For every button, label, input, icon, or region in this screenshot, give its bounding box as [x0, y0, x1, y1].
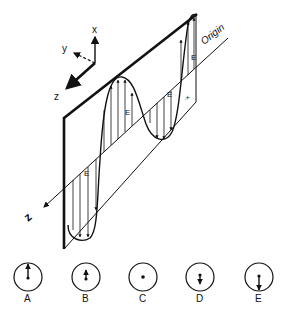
field-label-1: E	[84, 169, 89, 178]
x-axis-label: x	[92, 24, 97, 35]
electric-field-wave	[68, 15, 196, 241]
y-axis-arrow	[74, 53, 95, 63]
end-mark: -x	[183, 94, 191, 102]
field-label-4: E	[191, 53, 196, 62]
propagation-axis: Origin z -x	[21, 21, 228, 224]
z-axis-arrow	[67, 63, 95, 88]
option-b[interactable]: B	[72, 263, 100, 304]
dot-icon	[141, 275, 145, 279]
option-e-label: E	[255, 293, 262, 304]
z-propagation-label: z	[21, 210, 35, 225]
option-a-label: A	[24, 293, 31, 304]
option-b-label: B	[82, 293, 89, 304]
option-c-label: C	[139, 293, 146, 304]
option-a[interactable]: A	[14, 263, 42, 304]
field-label-3: E	[167, 90, 172, 99]
option-e[interactable]: E	[245, 263, 273, 304]
diagram-canvas: x y z Origin z -x	[0, 0, 286, 322]
wave-plane	[64, 14, 197, 249]
option-d[interactable]: D	[186, 263, 214, 304]
field-label-2: E	[125, 108, 130, 117]
y-axis-label: y	[62, 43, 67, 54]
z-axis-label: z	[54, 91, 59, 102]
field-labels: E E E E	[84, 53, 196, 178]
field-vectors	[73, 18, 194, 237]
option-c[interactable]: C	[129, 263, 157, 304]
coordinate-axes: x y z	[54, 24, 97, 102]
option-d-label: D	[196, 293, 203, 304]
